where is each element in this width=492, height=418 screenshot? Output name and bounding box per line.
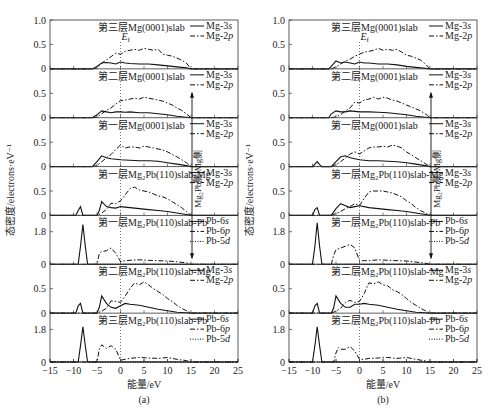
panel-title: 第一层Mg(0001)slab	[98, 119, 185, 132]
legend-label: Mg-2p	[445, 30, 472, 41]
panel-title: 第三层Mg₂Pb(110)slab-Pb	[331, 314, 440, 327]
y-tick-label: 0	[280, 161, 285, 172]
y-tick-label: 1.8	[273, 324, 286, 335]
y-tick-label: 0.5	[273, 186, 286, 197]
y-tick-label: 1.0	[273, 15, 286, 26]
x-tick-label: 5	[142, 365, 147, 376]
dos-panel: 1.80第三层Mg₂Pb(110)slab-PbPb-6sPb-6pPb-5d	[34, 313, 239, 367]
panel-title: 第三层Mg(0001)slab	[331, 21, 418, 34]
legend-label: Pb-5d	[206, 235, 231, 246]
y-tick-label: 0.5	[34, 186, 47, 197]
y-tick-label: 1.8	[34, 226, 47, 237]
dos-panel: 0.50第二层Mg₂Pb(110)slab-MgMg-3sMg-2p	[34, 264, 239, 318]
legend-label: Mg-2p	[445, 274, 472, 285]
dos-panel: 0.50第一层Mg₂Pb(110)slab-MgMg-3sMg-2p	[273, 167, 478, 221]
y-tick-label: 0	[280, 308, 285, 319]
panel-title: 第二层Mg₂Pb(110)slab-Mg	[331, 265, 444, 278]
y-tick-label: 0.5	[273, 283, 286, 294]
dos-panel: 1.00.50第三层Mg(0001)slabMg-3sMg-2p	[273, 15, 478, 75]
legend-label: Mg-2p	[445, 128, 472, 139]
x-tick-label: 10	[163, 365, 173, 376]
series-mg-2p	[289, 48, 477, 69]
series-mg-2p	[50, 48, 238, 69]
legend-label: Mg-2p	[206, 30, 233, 41]
dos-panel: 0.50第一层Mg(0001)slabMg-3sMg-2p	[34, 118, 239, 172]
mg-side-label: Mg侧	[192, 150, 203, 172]
series-mg-2p	[289, 145, 477, 167]
x-tick-label: −5	[92, 365, 103, 376]
series-mg-2p	[50, 145, 238, 167]
x-tick-label: 0	[118, 365, 123, 376]
x-tick-label: −5	[331, 365, 342, 376]
legend-label: Mg-2p	[445, 79, 472, 90]
y-tick-label: 0.5	[34, 88, 47, 99]
legend-label: Mg-2p	[206, 128, 233, 139]
subplot-label-a: (a)	[138, 394, 149, 406]
panel-title: 第二层Mg(0001)slab	[98, 70, 185, 83]
x-tick-label: 15	[425, 365, 435, 376]
panel-title: 第二层Mg₂Pb(110)slab-Mg	[98, 265, 211, 278]
dos-panel: 0.50第一层Mg(0001)slabMg-3sMg-2p	[273, 118, 478, 172]
subplot-label-b: (b)	[377, 394, 389, 406]
series-mg-2p	[50, 282, 238, 313]
y-tick-label: 0	[41, 112, 46, 123]
series-mg-2p	[289, 191, 477, 215]
y-tick-label: 0	[41, 259, 46, 270]
mg-side-label: Mg侧	[431, 150, 442, 172]
legend-label: Pb-5d	[445, 235, 470, 246]
x-tick-label: 5	[381, 365, 386, 376]
series-mg-2p	[289, 97, 477, 118]
xlabel-b: 能量/eV	[366, 378, 401, 390]
ylabel-a: 态密度/electrons·eV⁻¹	[4, 144, 16, 236]
y-tick-label: 1.0	[34, 15, 47, 26]
panel-title: 第三层Mg₂Pb(110)slab-Pb	[98, 314, 207, 327]
y-tick-label: 0	[41, 308, 46, 319]
legend-label: Mg-2p	[445, 177, 472, 188]
panel-title: 第一层Mg(0001)slab	[331, 119, 418, 132]
x-tick-label: 15	[186, 365, 196, 376]
dos-panel: 1.00.50第三层Mg(0001)slabMg-3sMg-2p	[34, 15, 239, 75]
dos-panel: 0.50第二层Mg(0001)slabMg-3sMg-2p	[273, 69, 478, 123]
dos-panel: 0.50第二层Mg₂Pb(110)slab-MgMg-3sMg-2p	[273, 264, 478, 318]
legend-label: Mg-2p	[206, 177, 233, 188]
y-tick-label: 0.5	[273, 39, 286, 50]
ylabel-b: 态密度/electrons·eV⁻¹	[243, 144, 255, 236]
subplot-a: Ef1.00.50第三层Mg(0001)slabMg-3sMg-2p0.50第二…	[34, 15, 244, 377]
x-tick-label: 10	[402, 365, 412, 376]
panel-title: 第二层Mg(0001)slab	[331, 70, 418, 83]
x-tick-label: 25	[233, 365, 243, 376]
y-tick-label: 0	[280, 112, 285, 123]
dos-panel: 0.50第一层Mg₂Pb(110)slab-MgMg-3sMg-2p	[34, 167, 239, 221]
legend-label: Mg-2p	[206, 79, 233, 90]
panel-title: 第一层Mg₂Pb(110)slab-Mg	[331, 168, 444, 181]
legend-label: Mg-2p	[206, 274, 233, 285]
dos-figure: Ef1.00.50第三层Mg(0001)slabMg-3sMg-2p0.50第二…	[0, 0, 492, 418]
x-tick-label: 0	[357, 365, 362, 376]
xlabel-a: 能量/eV	[127, 378, 162, 390]
y-tick-label: 0.5	[34, 137, 47, 148]
arrow-down-icon	[190, 253, 194, 259]
dos-panel: 0.50第二层Mg(0001)slabMg-3sMg-2p	[34, 69, 239, 123]
x-tick-label: 20	[449, 365, 459, 376]
series-mg-2p	[50, 97, 238, 118]
x-tick-label: 20	[210, 365, 220, 376]
y-tick-label: 0.5	[34, 39, 47, 50]
y-tick-label: 0.5	[273, 137, 286, 148]
legend-label: Pb-5d	[445, 333, 470, 344]
subplot-b: Ef1.00.50第三层Mg(0001)slabMg-3sMg-2p0.50第二…	[273, 15, 483, 377]
dos-panel: 1.80第三层Mg₂Pb(110)slab-PbPb-6sPb-6pPb-5d	[273, 313, 478, 367]
y-tick-label: 0	[280, 259, 285, 270]
arrow-up-icon	[190, 92, 194, 98]
mg2pb-side-label: Mg₂Pb侧	[192, 173, 203, 207]
panel-title: 第一层Mg₂Pb(110)slab-Pb	[331, 216, 440, 229]
series-mg-2p	[289, 282, 477, 313]
mg2pb-side-label: Mg₂Pb侧	[431, 173, 442, 207]
y-tick-label: 0	[280, 63, 285, 74]
dos-panel: 1.80第一层Mg₂Pb(110)slab-PbPb-6sPb-6pPb-5d	[34, 215, 239, 269]
y-tick-label: 0	[41, 161, 46, 172]
x-tick-label: −10	[305, 365, 321, 376]
panel-title: 第三层Mg(0001)slab	[98, 21, 185, 34]
y-tick-label: 1.8	[273, 226, 286, 237]
y-tick-label: 0.5	[273, 88, 286, 99]
y-tick-label: 0.5	[34, 283, 47, 294]
